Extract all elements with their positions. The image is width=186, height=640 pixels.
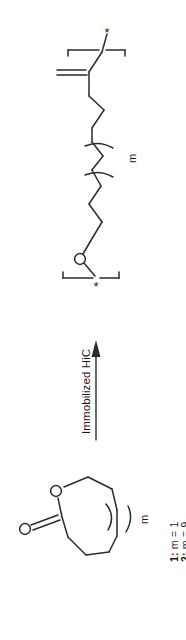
ring-carbonyl-double-outer (33, 520, 60, 530)
ring-bond-c1-carbonyl (62, 517, 68, 537)
polymer-star-bottom: * (93, 279, 98, 294)
polymer-bracket-right (106, 50, 125, 56)
repeat-bracket-bottom-ring (126, 506, 131, 532)
ring-bond-c6-c5 (112, 489, 117, 510)
lactone-ring-structure (20, 477, 131, 555)
reaction-arrow-label: Immobilized HiC (80, 349, 92, 434)
polymer-chain-seg-8 (89, 186, 101, 204)
reaction-arrow-head (92, 340, 101, 357)
ring-bond-c2-c1 (68, 537, 86, 555)
legend-entry-2-prefix: 2: (179, 552, 186, 562)
lactone-repeat-subscript: m (138, 515, 150, 524)
ring-carbonyl-double-inner (31, 515, 58, 525)
polymer-chain-seg-9 (89, 204, 102, 222)
ring-bond-carbonyl-to-o (58, 498, 62, 517)
scheme-vector-layer: * * (0, 0, 186, 640)
polymer-bond-o-to-bracket (84, 263, 95, 276)
polymer-bracket-left (68, 50, 99, 56)
polymer-bond-alpha (89, 52, 102, 72)
legend-entry-2-text: m = 9 (179, 522, 186, 550)
ring-bond-c4-c3 (109, 536, 117, 552)
ring-bond-c7-c6 (88, 477, 112, 489)
ring-carbonyl-oxygen-atom (20, 524, 31, 535)
polymer-chain-seg-6 (92, 156, 103, 170)
polymer-star-top: * (104, 25, 109, 40)
ring-bond-c3-c2 (86, 552, 109, 555)
polymer-chain-seg-3 (92, 110, 104, 128)
polymer-chain-seg-10 (90, 222, 102, 242)
polymer-repeat-subscript: m (126, 154, 138, 163)
polymer-structure (57, 34, 125, 278)
legend-entry-2: 2: m = 9 (179, 522, 186, 562)
polymer-chain-seg-2 (89, 96, 104, 110)
repeat-bracket-top-polymer (85, 143, 113, 148)
repeat-bracket-bottom-polymer (85, 172, 113, 177)
ring-bond-o-c7 (64, 477, 88, 487)
repeat-bracket-top-ring (106, 504, 112, 530)
reaction-scheme-figure: * * m m Immobilized HiC 1: m = 1 2: m = … (0, 0, 186, 640)
ring-oxygen-atom (51, 486, 62, 497)
polymer-bracket-right-bottom (100, 272, 119, 278)
polymer-bond-to-ester-o (83, 242, 90, 254)
polymer-bracket-left-bottom (63, 272, 93, 278)
